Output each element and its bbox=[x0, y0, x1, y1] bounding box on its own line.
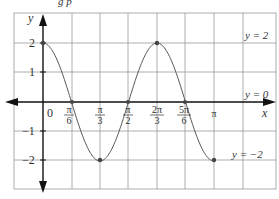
x-tick-5pi6-num: 5π bbox=[179, 104, 189, 115]
chart: g p y x bbox=[0, 0, 279, 199]
x-tick-2pi3-den: 3 bbox=[155, 115, 160, 126]
annotation-y-2: y = 2 bbox=[244, 29, 269, 41]
y-tick-minus-1: −1 bbox=[22, 124, 35, 138]
x-tick-5pi6-den: 6 bbox=[182, 115, 187, 126]
y-tick-2: 2 bbox=[29, 36, 35, 50]
x-tick-pi3-num: π bbox=[97, 104, 102, 115]
y-axis-down-arrow-icon bbox=[39, 181, 47, 193]
x-tick-pi3-den: 3 bbox=[98, 115, 103, 126]
x-axis-left-arrow-icon bbox=[5, 98, 18, 106]
x-tick-pi: π bbox=[211, 108, 216, 119]
axes bbox=[14, 17, 272, 186]
annotation-y-0: y = 0 bbox=[244, 88, 269, 100]
y-axis-label: y bbox=[27, 11, 34, 25]
x-tick-pi2-den: 2 bbox=[126, 115, 131, 126]
grid bbox=[14, 13, 276, 189]
x-tick-pi6-num: π bbox=[66, 104, 71, 115]
x-tick-2pi3-num: 2π bbox=[152, 104, 162, 115]
annotations: y = 2 y = 0 y = −2 bbox=[231, 29, 269, 160]
y-tick-1: 1 bbox=[29, 65, 35, 79]
annotation-y-minus-2: y = −2 bbox=[231, 148, 263, 160]
partial-caption: g p bbox=[58, 0, 72, 7]
origin-label: 0 bbox=[47, 106, 53, 120]
x-tick-labels: π 6 π 3 π 2 2π 3 5π 6 π bbox=[64, 104, 217, 126]
x-tick-pi6-den: 6 bbox=[67, 115, 72, 126]
y-axis-up-arrow-icon bbox=[39, 14, 47, 26]
x-axis-label: x bbox=[261, 106, 268, 120]
y-tick-minus-2: −2 bbox=[22, 153, 35, 167]
x-tick-pi2-num: π bbox=[125, 104, 130, 115]
